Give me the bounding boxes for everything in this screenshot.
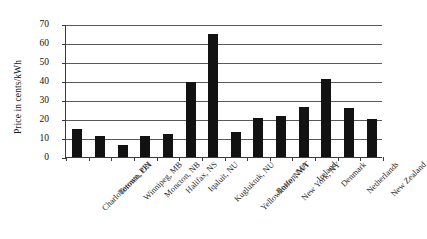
y-axis-tick-label: 60 xyxy=(23,39,49,49)
bar xyxy=(253,118,263,157)
bar xyxy=(208,34,218,158)
x-axis-labels-group: Charlottetown, PEIToronto, ONWinnipeg, M… xyxy=(65,160,382,239)
bar xyxy=(72,129,82,157)
bar xyxy=(344,108,354,157)
bar xyxy=(140,136,150,157)
y-axis-title: Price in cents/kWh xyxy=(13,27,23,167)
bar xyxy=(321,79,331,157)
y-axis-tick-label: 30 xyxy=(23,96,49,106)
y-axis-tick-label: 0 xyxy=(23,153,49,163)
bar xyxy=(299,107,309,157)
plot-area: 010203040506070 xyxy=(65,25,382,158)
y-axis-tick-label: 70 xyxy=(23,20,49,30)
x-axis-category-label: Denmark xyxy=(340,160,369,189)
bar xyxy=(95,136,105,157)
y-axis-tick-label: 10 xyxy=(23,134,49,144)
bar xyxy=(186,82,196,157)
bar xyxy=(367,119,377,157)
y-axis-tick-label: 40 xyxy=(23,77,49,87)
bar xyxy=(163,134,173,157)
bar xyxy=(276,116,286,157)
bar xyxy=(118,145,128,157)
y-axis-tick-label: 50 xyxy=(23,58,49,68)
y-axis-tick-label: 20 xyxy=(23,115,49,125)
bar xyxy=(231,132,241,157)
x-axis-tick-mark xyxy=(383,157,384,161)
bars-group xyxy=(66,25,382,157)
